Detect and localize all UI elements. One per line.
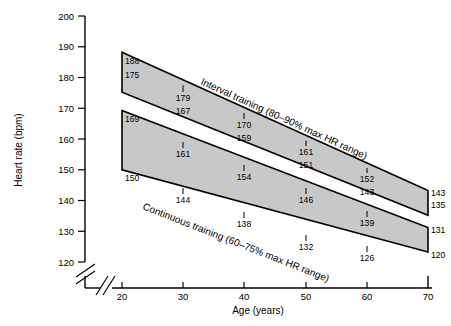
value-label-interval-lower-30: 167 [176,106,191,116]
y-tick-190: 190 [58,41,74,52]
y-tick-120: 120 [58,257,74,268]
value-label-interval-lower-40: 159 [237,133,252,143]
value-label-interval-upper-30: 179 [176,93,191,103]
value-label-continuous-upper-70: 131 [431,225,446,235]
value-label-continuous-upper-60: 139 [360,218,375,228]
y-axis-title: Heart rate (bpm) [13,113,24,186]
x-axis-break-icon [96,276,115,295]
x-tick-70: 70 [423,291,434,302]
y-tick-130: 130 [58,226,74,237]
value-label-interval-lower-70: 135 [431,200,446,210]
x-tick-40: 40 [239,291,250,302]
x-axis: 20 30 40 50 60 70 [85,276,433,302]
value-label-continuous-lower-60: 126 [360,253,375,263]
value-label-interval-upper-20: 188 [125,56,140,66]
heart-rate-training-zone-chart: 200 190 180 170 160 150 140 130 120 [0,0,451,326]
value-label-continuous-lower-30: 144 [176,195,191,205]
value-label-continuous-upper-20: 169 [125,114,140,124]
value-label-continuous-lower-20: 150 [125,173,140,183]
value-label-interval-upper-70: 143 [431,188,446,198]
value-label-interval-upper-60: 152 [360,174,375,184]
x-tick-20: 20 [117,291,128,302]
y-tick-160: 160 [58,134,74,145]
y-tick-140: 140 [58,195,74,206]
x-tick-50: 50 [301,291,312,302]
value-label-continuous-upper-40: 154 [237,172,252,182]
figure-container: 200 190 180 170 160 150 140 130 120 [0,0,451,326]
value-label-interval-lower-50: 151 [299,160,314,170]
value-label-interval-lower-60: 143 [360,187,375,197]
value-label-continuous-lower-40: 138 [237,219,252,229]
y-axis: 200 190 180 170 160 150 140 130 120 [58,11,95,289]
y-tick-180: 180 [58,72,74,83]
x-tick-30: 30 [178,291,189,302]
value-label-continuous-lower-50: 132 [299,242,314,252]
value-label-continuous-upper-50: 146 [299,195,314,205]
x-axis-title: Age (years) [232,305,284,316]
x-tick-60: 60 [362,291,373,302]
value-label-interval-upper-40: 170 [237,120,252,130]
value-label-continuous-upper-30: 161 [176,149,191,159]
value-label-continuous-lower-70: 120 [431,250,446,260]
value-label-interval-lower-20: 175 [125,70,140,80]
y-tick-200: 200 [58,11,74,22]
y-tick-170: 170 [58,103,74,114]
value-label-interval-upper-50: 161 [299,147,314,157]
y-tick-150: 150 [58,164,74,175]
